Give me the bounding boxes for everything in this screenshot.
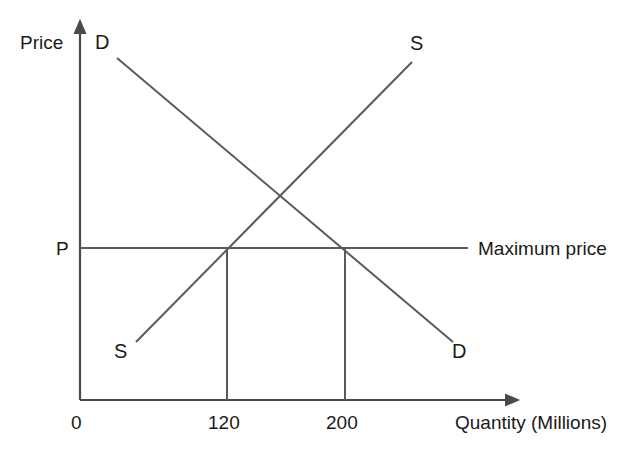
x-axis-title: Quantity (Millions) [455, 413, 607, 432]
x-axis-tick-200: 200 [326, 413, 358, 432]
demand-curve [117, 58, 453, 342]
origin-label: 0 [71, 413, 82, 432]
chart-canvas [0, 0, 643, 462]
supply-curve-label-bottom: S [114, 341, 127, 361]
maximum-price-label: Maximum price [478, 239, 607, 258]
y-axis-title: Price [20, 33, 63, 52]
supply-curve-label-top: S [410, 33, 423, 53]
demand-curve-label-top: D [95, 32, 109, 52]
price-level-label: P [56, 239, 69, 258]
demand-curve-label-bottom: D [452, 341, 466, 361]
supply-demand-chart: Price D S P Maximum price S D 0 120 200 … [0, 0, 643, 462]
x-axis-tick-120: 120 [208, 413, 240, 432]
supply-curve [136, 62, 412, 342]
